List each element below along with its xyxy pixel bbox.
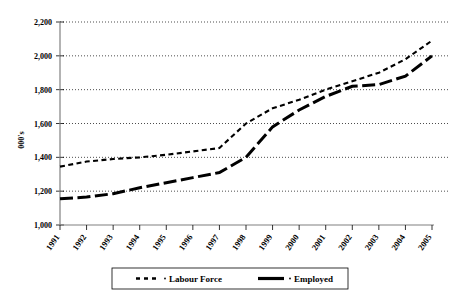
x-axis-tick-label: 1992 — [70, 232, 88, 252]
legend-dot-icon — [164, 278, 166, 280]
x-axis-tick-labels: 1991199219931994199519961997199819992000… — [44, 232, 434, 252]
y-axis-tick-labels: 1,0001,2001,4001,6001,8002,0002,200 — [34, 18, 52, 230]
x-axis-tickmarks — [60, 225, 432, 230]
x-axis-tick-label: 1997 — [203, 232, 221, 252]
legend-label-employed: Employed — [294, 274, 333, 284]
y-axis-tick-label: 1,400 — [34, 153, 52, 162]
y-axis-tick-label: 2,000 — [34, 52, 52, 61]
x-axis-tick-label: 2003 — [363, 232, 381, 252]
x-axis-tick-label: 2002 — [336, 232, 354, 252]
y-axis-tick-label: 1,800 — [34, 86, 52, 95]
gridlines — [60, 22, 448, 191]
series-line-labour-force — [60, 41, 432, 167]
legend-label-labour-force: Labour Force — [169, 274, 222, 284]
x-axis-tick-label: 2005 — [416, 232, 434, 252]
y-axis-tick-label: 1,200 — [34, 187, 52, 196]
legend: Labour Force Employed — [112, 268, 348, 289]
x-axis-tick-label: 1991 — [44, 232, 62, 252]
x-axis-tick-label: 1998 — [230, 232, 248, 252]
chart-container: 1,0001,2001,4001,6001,8002,0002,200 1991… — [0, 0, 454, 297]
x-axis-tick-label: 1996 — [177, 232, 195, 252]
x-axis-tick-label: 1995 — [150, 232, 168, 252]
x-axis-tick-label: 2000 — [283, 232, 301, 252]
y-axis-tick-label: 1,000 — [34, 221, 52, 230]
y-axis-title: 000's — [17, 131, 26, 148]
x-axis-tick-label: 1994 — [123, 232, 141, 252]
series-line-employed — [60, 56, 432, 199]
x-axis-tick-label: 2001 — [309, 232, 327, 252]
line-chart: 1,0001,2001,4001,6001,8002,0002,200 1991… — [0, 0, 454, 297]
x-axis-tick-label: 2004 — [389, 232, 407, 252]
legend-dot-icon — [289, 278, 291, 280]
y-axis-tick-label: 2,200 — [34, 18, 52, 27]
x-axis-tick-label: 1993 — [97, 232, 115, 252]
x-axis-tick-label: 1999 — [256, 232, 274, 252]
y-axis-tick-label: 1,600 — [34, 120, 52, 129]
